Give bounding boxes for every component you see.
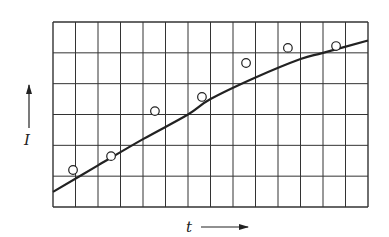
data-points bbox=[69, 42, 341, 175]
plot-grid bbox=[53, 22, 368, 207]
x-axis-label: t bbox=[186, 218, 193, 236]
data-point-marker bbox=[69, 166, 78, 175]
data-point-marker bbox=[332, 42, 341, 51]
data-point-marker bbox=[151, 107, 160, 116]
data-point-marker bbox=[284, 44, 293, 53]
data-point-marker bbox=[198, 93, 207, 102]
data-point-marker bbox=[242, 59, 251, 68]
data-point-marker bbox=[107, 152, 116, 161]
chart: I t bbox=[0, 0, 389, 237]
y-axis-label: I bbox=[23, 131, 31, 149]
